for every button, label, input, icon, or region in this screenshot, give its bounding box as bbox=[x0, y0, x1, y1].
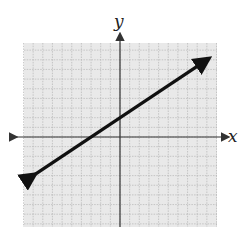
y-axis-label: y bbox=[113, 11, 124, 31]
x-axis-label: x bbox=[228, 126, 238, 146]
coordinate-plane: x y bbox=[0, 0, 239, 227]
